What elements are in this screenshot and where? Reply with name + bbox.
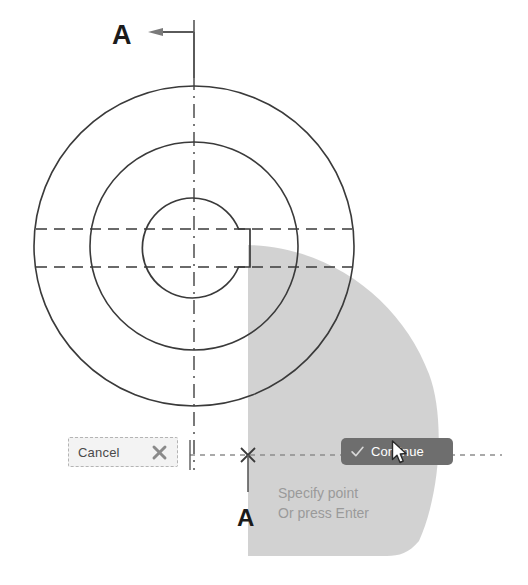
continue-button[interactable]: Continue <box>341 438 453 465</box>
bore-with-keyway[interactable] <box>142 198 250 298</box>
section-arrowhead-icon <box>148 28 163 36</box>
cad-canvas[interactable]: A A Cancel Continue Specify point Or pre… <box>0 0 528 585</box>
drawing-viewport[interactable] <box>0 0 528 585</box>
section-label-bottom: A <box>237 506 254 530</box>
section-arrow-top <box>148 28 194 78</box>
highlight-shape <box>248 245 439 556</box>
close-x-icon <box>151 444 168 461</box>
cancel-button-label: Cancel <box>78 445 120 460</box>
selection-highlight-region <box>248 245 439 556</box>
checkmark-icon <box>350 444 365 459</box>
section-label-top: A <box>112 22 132 49</box>
cancel-button[interactable]: Cancel <box>68 437 178 467</box>
continue-button-label: Continue <box>371 444 424 459</box>
